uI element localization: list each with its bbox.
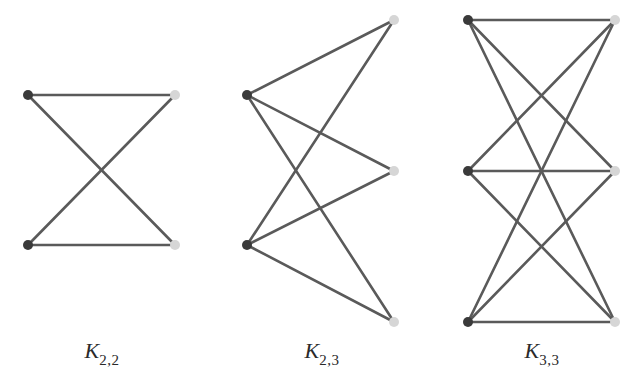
edges-layer xyxy=(28,20,615,322)
label-k23-sub: 2,3 xyxy=(319,352,339,368)
label-k22-main: K xyxy=(85,338,100,363)
label-k23-main: K xyxy=(305,338,320,363)
k22-left-node xyxy=(23,90,33,100)
k33-right-node xyxy=(610,317,620,327)
k23-left-node xyxy=(242,240,252,250)
label-k33-sub: 3,3 xyxy=(539,352,559,368)
k33-right-node xyxy=(610,166,620,176)
k23-edge xyxy=(247,20,394,95)
k23-left-node xyxy=(242,90,252,100)
label-k33-main: K xyxy=(525,338,540,363)
k33-left-node xyxy=(463,317,473,327)
k23-edge xyxy=(247,171,394,245)
label-k22: K2,2 xyxy=(85,338,120,369)
k23-right-node xyxy=(389,166,399,176)
label-k33: K3,3 xyxy=(525,338,560,369)
k23-edge xyxy=(247,245,394,322)
label-k23: K2,3 xyxy=(305,338,340,369)
k33-left-node xyxy=(463,15,473,25)
k22-left-node xyxy=(23,240,33,250)
k33-right-node xyxy=(610,15,620,25)
k23-right-node xyxy=(389,15,399,25)
k23-edge xyxy=(247,20,394,245)
bipartite-graphs-diagram xyxy=(0,0,635,384)
k23-right-node xyxy=(389,317,399,327)
label-k22-sub: 2,2 xyxy=(99,352,119,368)
k33-left-node xyxy=(463,166,473,176)
k22-right-node xyxy=(170,90,180,100)
k22-right-node xyxy=(170,240,180,250)
